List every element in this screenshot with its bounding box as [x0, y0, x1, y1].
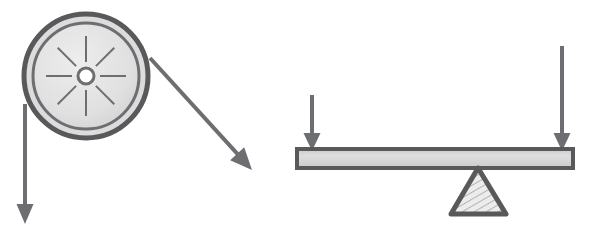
- lever-load-arrow: [554, 46, 571, 151]
- pulley-group: [24, 14, 148, 138]
- pulley-effort-arrow: [150, 58, 252, 170]
- pulley-hub: [78, 68, 94, 84]
- lever-group: [297, 149, 573, 214]
- pulley-load-arrow: [17, 104, 34, 224]
- lever-beam: [297, 149, 573, 168]
- diagram-canvas: [0, 0, 589, 240]
- pulley-effort-arrow-shaft: [150, 58, 239, 155]
- lever-effort-arrow: [304, 95, 321, 151]
- lever-fulcrum: [451, 168, 506, 214]
- simple-machines-figure: [0, 0, 589, 240]
- pulley-load-arrow-head: [17, 204, 34, 224]
